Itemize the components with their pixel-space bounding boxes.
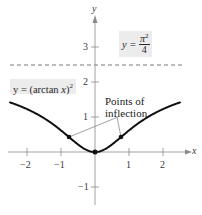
inflection-point-left (67, 135, 72, 140)
asymptote-label-prefix: y = (122, 39, 139, 50)
chart-canvas (0, 0, 202, 215)
x-axis-label: x (192, 146, 196, 156)
y-tick-label: 2 (83, 77, 88, 87)
curve-label: y = (arctan x)2 (10, 79, 76, 94)
inflection-point-right (119, 135, 124, 140)
inflection-annotation: Points of inflection (105, 95, 147, 119)
y-tick-label: −1 (78, 182, 89, 192)
y-tick-label: 1 (83, 112, 88, 122)
origin-minimum-point (93, 150, 98, 155)
x-tick-label: 1 (126, 160, 131, 170)
x-tick-label: −2 (20, 160, 31, 170)
y-axis-label: y (92, 4, 96, 14)
asymptote-label: y = π2 4 (119, 31, 152, 57)
y-tick-label: 3 (83, 42, 88, 52)
annotation-leader-left (69, 117, 118, 137)
x-axis-arrow-icon (185, 150, 192, 155)
asymptote-fraction: π2 4 (139, 33, 150, 55)
annotation-leader-right (117, 117, 121, 137)
y-axis-arrow-icon (93, 15, 98, 23)
x-tick-label: −1 (54, 160, 65, 170)
x-tick-label: 2 (160, 160, 165, 170)
